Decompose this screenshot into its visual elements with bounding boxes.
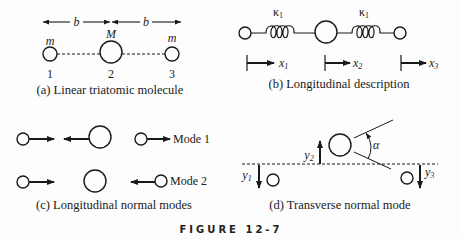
displacement-y1: y1 (241, 165, 259, 188)
spacing-arrow-right: b (112, 15, 181, 29)
svg-text:x2: x2 (352, 56, 362, 71)
atom-2-circle (100, 41, 122, 63)
atom-3-circle (394, 27, 406, 39)
svg-text:y2: y2 (303, 148, 313, 163)
panel-b-longitudinal-description: κ1 κ1 x1 x2 x3 (b) Longitudinal descript… (239, 5, 438, 91)
angle-label-alpha: α (373, 138, 380, 152)
atom-3-circle (401, 172, 413, 184)
spring-label-2: κ1 (359, 5, 369, 20)
svg-text:x3: x3 (428, 56, 438, 71)
mass-label-1: m (46, 34, 55, 48)
panel-a-linear-triatomic: b b m M m 1 2 3 (a) Linear triatomic mol… (37, 15, 184, 97)
mode-1-row: Mode 1 (17, 126, 210, 148)
displacement-x2: x2 (325, 55, 362, 71)
atom-number-1: 1 (47, 67, 53, 81)
svg-text:y3: y3 (424, 165, 434, 180)
atom-3-circle (165, 47, 179, 61)
figure-12-7: b b m M m 1 2 3 (a) Linear triatomic mol… (0, 0, 461, 239)
caption-a: (a) Linear triatomic molecule (37, 83, 184, 97)
atom-number-3: 3 (169, 67, 175, 81)
displacement-x1: x1 (247, 55, 288, 71)
displacement-x3: x3 (401, 55, 438, 71)
caption-c: (c) Longitudinal normal modes (36, 198, 192, 212)
atom-2-circle (315, 21, 337, 43)
atom-number-2: 2 (108, 67, 114, 81)
atom-2-circle (329, 134, 351, 156)
displacement-y3: y3 (420, 165, 434, 188)
atom-1-circle (43, 47, 57, 61)
displacement-y2: y2 (303, 141, 320, 164)
atom-1-circle (267, 174, 279, 186)
spacing-label-b-left: b (74, 15, 80, 29)
spacing-arrow-left: b (43, 15, 110, 29)
spacing-label-b-right: b (143, 15, 149, 29)
spring-1-icon (251, 26, 315, 38)
spring-label-1: κ1 (273, 5, 283, 20)
angle-line-lower (354, 152, 391, 169)
angle-arc-icon (366, 133, 371, 159)
svg-text:x1: x1 (278, 56, 288, 71)
mode-2-row: Mode 2 (17, 170, 207, 192)
mode-2-label: Mode 2 (170, 174, 207, 188)
panel-d-transverse-mode: y1 y2 α y3 (d) Transverse normal mode (241, 120, 438, 212)
figure-title: FIGURE 12-7 (180, 224, 283, 235)
mass-label-2: M (105, 27, 117, 41)
mass-label-3: m (168, 31, 177, 45)
atom-1-circle (239, 27, 251, 39)
svg-text:y1: y1 (241, 168, 251, 183)
panel-c-longitudinal-modes: Mode 1 Mode 2 (c) Longitudinal normal mo… (17, 126, 210, 212)
caption-d: (d) Transverse normal mode (269, 198, 411, 212)
spring-2-icon (337, 26, 394, 38)
mode-1-label: Mode 1 (173, 132, 210, 146)
angle-line-upper (354, 120, 393, 138)
caption-b: (b) Longitudinal description (269, 77, 411, 91)
